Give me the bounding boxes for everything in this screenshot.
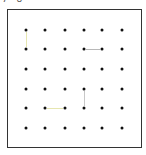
grid-dot[interactable] xyxy=(101,127,104,130)
grid-dot[interactable] xyxy=(121,88,124,91)
grid-dot[interactable] xyxy=(101,107,104,110)
grid-dot[interactable] xyxy=(25,48,28,51)
grid-dot[interactable] xyxy=(83,29,86,32)
vertical-edge[interactable] xyxy=(84,91,85,106)
grid-dot[interactable] xyxy=(25,68,28,71)
grid-dot[interactable] xyxy=(44,48,47,51)
grid-dot[interactable] xyxy=(64,88,67,91)
score-label: 7 8 xyxy=(2,0,25,4)
vertical-edge[interactable] xyxy=(26,32,27,47)
grid-dot[interactable] xyxy=(64,48,67,51)
grid-dot[interactable] xyxy=(121,48,124,51)
grid-dot[interactable] xyxy=(64,127,67,130)
horizontal-edge[interactable] xyxy=(86,49,100,50)
grid-dot[interactable] xyxy=(121,107,124,110)
grid-dot[interactable] xyxy=(101,88,104,91)
grid-dot[interactable] xyxy=(44,68,47,71)
grid-dot[interactable] xyxy=(44,29,47,32)
grid-dot[interactable] xyxy=(121,127,124,130)
grid-dot[interactable] xyxy=(25,107,28,110)
grid-dot[interactable] xyxy=(83,48,86,51)
grid-dot[interactable] xyxy=(101,48,104,51)
grid-dot[interactable] xyxy=(101,29,104,32)
grid-dot[interactable] xyxy=(25,88,28,91)
grid-dot[interactable] xyxy=(64,29,67,32)
grid-dot[interactable] xyxy=(83,107,86,110)
grid-dot[interactable] xyxy=(83,127,86,130)
grid-dot[interactable] xyxy=(44,107,47,110)
horizontal-edge[interactable] xyxy=(47,108,63,109)
grid-dot[interactable] xyxy=(121,68,124,71)
grid-dot[interactable] xyxy=(44,127,47,130)
grid-dot[interactable] xyxy=(25,29,28,32)
grid-dot[interactable] xyxy=(83,88,86,91)
grid-dot[interactable] xyxy=(44,88,47,91)
grid-dot[interactable] xyxy=(83,68,86,71)
grid-dot[interactable] xyxy=(101,68,104,71)
grid-dot[interactable] xyxy=(64,68,67,71)
grid-dot[interactable] xyxy=(25,127,28,130)
grid-dot[interactable] xyxy=(121,29,124,32)
grid-dot[interactable] xyxy=(64,107,67,110)
